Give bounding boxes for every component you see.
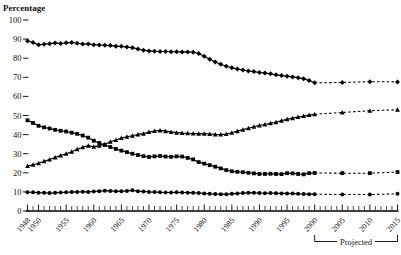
data-point-marker bbox=[97, 43, 102, 48]
series-diamond bbox=[25, 39, 400, 86]
data-point-marker bbox=[130, 45, 135, 50]
data-point-marker bbox=[246, 191, 250, 195]
data-point-marker bbox=[42, 42, 47, 47]
data-point-marker bbox=[37, 191, 41, 195]
data-point-marker bbox=[202, 162, 206, 166]
data-point-marker bbox=[174, 49, 179, 54]
data-point-marker bbox=[224, 64, 229, 69]
data-point-marker bbox=[53, 128, 57, 132]
data-point-marker bbox=[241, 170, 245, 174]
data-point-marker bbox=[208, 192, 212, 196]
y-tick-label: 50 bbox=[13, 111, 22, 121]
data-point-marker bbox=[368, 171, 372, 175]
data-point-marker bbox=[280, 191, 284, 195]
x-tick-label: 1990 bbox=[247, 216, 264, 234]
data-point-marker bbox=[230, 192, 234, 196]
series-line-projected bbox=[315, 110, 398, 115]
data-point-marker bbox=[235, 191, 239, 195]
data-point-marker bbox=[185, 50, 190, 55]
data-point-marker bbox=[207, 57, 212, 62]
data-point-marker bbox=[285, 74, 290, 79]
data-point-marker bbox=[197, 191, 201, 195]
data-point-marker bbox=[274, 72, 279, 77]
data-point-marker bbox=[368, 193, 372, 197]
data-point-marker bbox=[291, 171, 295, 175]
data-point-marker bbox=[81, 190, 85, 194]
data-point-marker bbox=[257, 191, 261, 195]
data-point-marker bbox=[92, 190, 96, 194]
data-point-marker bbox=[136, 189, 140, 193]
y-tick-label: 60 bbox=[13, 91, 22, 101]
data-point-marker bbox=[285, 191, 289, 195]
data-point-marker bbox=[291, 192, 295, 196]
data-point-marker bbox=[108, 189, 112, 193]
data-point-marker bbox=[269, 172, 273, 176]
y-tick-label: 70 bbox=[13, 72, 22, 82]
data-point-marker bbox=[224, 192, 228, 196]
data-point-marker bbox=[396, 192, 400, 196]
data-point-marker bbox=[290, 74, 295, 79]
data-point-marker bbox=[114, 147, 118, 151]
data-point-marker bbox=[86, 190, 90, 194]
data-point-marker bbox=[113, 44, 118, 49]
data-point-marker bbox=[86, 136, 90, 140]
data-point-marker bbox=[169, 49, 174, 54]
data-point-marker bbox=[340, 193, 344, 197]
data-point-marker bbox=[142, 154, 146, 158]
data-point-marker bbox=[263, 191, 267, 195]
y-tick-label: 10 bbox=[13, 187, 22, 197]
data-point-marker bbox=[279, 73, 284, 78]
data-point-marker bbox=[395, 107, 400, 112]
data-point-marker bbox=[268, 191, 272, 195]
data-point-marker bbox=[213, 60, 218, 65]
data-point-marker bbox=[37, 124, 41, 128]
data-point-marker bbox=[169, 190, 173, 194]
data-point-marker bbox=[274, 172, 278, 176]
data-point-marker bbox=[119, 189, 123, 193]
data-point-marker bbox=[158, 154, 162, 158]
data-point-marker bbox=[124, 45, 129, 50]
data-point-marker bbox=[70, 131, 74, 135]
data-point-marker bbox=[219, 192, 223, 196]
projected-bracket: Projected bbox=[315, 235, 398, 247]
data-point-marker bbox=[147, 155, 151, 159]
data-point-marker bbox=[202, 191, 206, 195]
data-point-marker bbox=[103, 143, 107, 147]
data-point-marker bbox=[240, 68, 245, 73]
data-point-marker bbox=[208, 163, 212, 167]
data-point-marker bbox=[31, 121, 35, 125]
data-point-marker bbox=[58, 41, 63, 46]
data-point-marker bbox=[26, 190, 30, 194]
data-point-marker bbox=[340, 80, 345, 85]
data-point-marker bbox=[307, 78, 312, 83]
data-point-marker bbox=[75, 190, 79, 194]
data-point-marker bbox=[146, 48, 151, 53]
data-point-marker bbox=[42, 191, 46, 195]
data-point-marker bbox=[169, 155, 173, 159]
series-circle bbox=[26, 188, 400, 196]
data-point-marker bbox=[164, 190, 168, 194]
data-point-marker bbox=[31, 190, 35, 194]
y-tick-label: 40 bbox=[13, 130, 22, 140]
data-point-marker bbox=[131, 152, 135, 156]
x-axis-ticks bbox=[28, 205, 398, 211]
data-point-marker bbox=[59, 129, 63, 133]
data-point-marker bbox=[213, 165, 217, 169]
data-point-marker bbox=[235, 67, 240, 72]
data-point-marker bbox=[119, 149, 123, 153]
data-point-marker bbox=[175, 154, 179, 158]
data-point-marker bbox=[230, 169, 234, 173]
data-point-marker bbox=[296, 172, 300, 176]
x-tick-label: 1980 bbox=[192, 216, 209, 234]
data-point-marker bbox=[97, 189, 101, 193]
data-point-marker bbox=[224, 168, 228, 172]
data-point-marker bbox=[158, 190, 162, 194]
data-point-marker bbox=[36, 42, 41, 47]
series-line-solid bbox=[28, 41, 315, 83]
x-tick-label: 2010 bbox=[357, 216, 374, 234]
x-tick-label: 2005 bbox=[330, 216, 347, 234]
data-point-marker bbox=[158, 49, 163, 54]
data-point-marker bbox=[53, 191, 57, 195]
data-point-marker bbox=[313, 192, 317, 196]
data-point-marker bbox=[219, 167, 223, 171]
